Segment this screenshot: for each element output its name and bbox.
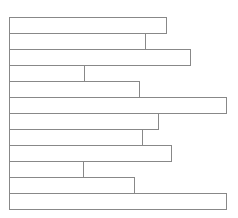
bar-9 xyxy=(10,146,172,162)
bar-5 xyxy=(10,82,140,98)
horizontal-bar-chart xyxy=(0,0,238,218)
bar-7 xyxy=(10,114,159,130)
bar-2 xyxy=(10,34,146,50)
bar-3 xyxy=(10,50,191,66)
bar-10 xyxy=(10,162,84,178)
bar-4 xyxy=(10,66,85,82)
bar-12 xyxy=(10,194,227,210)
bar-11 xyxy=(10,178,135,194)
bar-8 xyxy=(10,130,143,146)
bar-6 xyxy=(10,98,227,114)
bar-1 xyxy=(10,18,167,34)
